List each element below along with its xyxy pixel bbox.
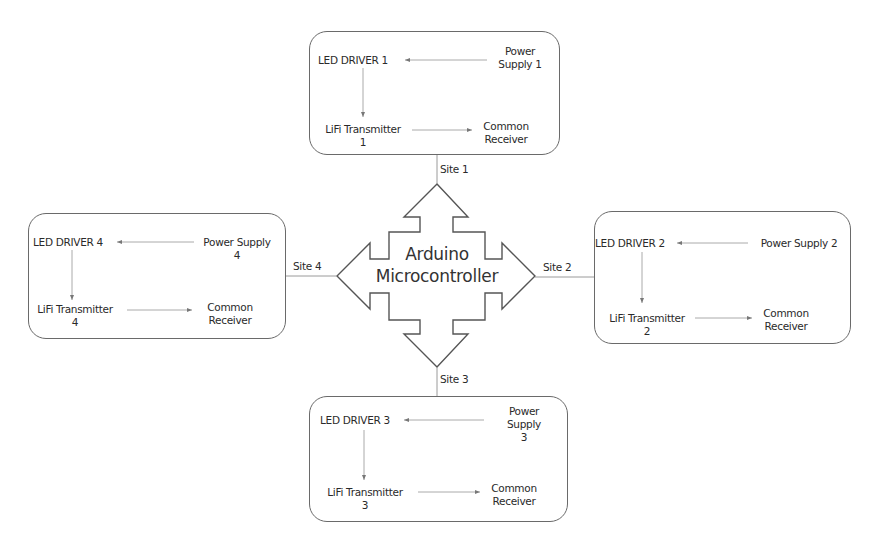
site-2-label: Site 2: [543, 261, 571, 273]
site-2-lifi-transmitter: LiFi Transmitter 2: [600, 312, 694, 338]
arduino-label-line2: Microcontroller: [367, 265, 507, 287]
arduino-label: Arduino Microcontroller: [367, 243, 507, 287]
site-4-lifi-transmitter: LiFi Transmitter 4: [28, 303, 122, 329]
site-1-lifi-transmitter: LiFi Transmitter 1: [316, 123, 410, 149]
site-4-led-driver: LED DRIVER 4: [33, 236, 103, 249]
site-2-led-driver: LED DRIVER 2: [595, 237, 665, 250]
site-1-power-supply: Power Supply 1: [490, 45, 550, 71]
site-4-common-receiver: Common Receiver: [200, 301, 260, 327]
site-3-led-driver: LED DRIVER 3: [320, 414, 390, 427]
site-4-label: Site 4: [293, 260, 321, 272]
site-3-label: Site 3: [440, 373, 468, 385]
arduino-label-line1: Arduino: [367, 243, 507, 265]
site-3-lifi-transmitter: LiFi Transmitter 3: [318, 486, 412, 512]
site-3-common-receiver: Common Receiver: [484, 482, 544, 508]
site-1-led-driver: LED DRIVER 1: [318, 54, 388, 67]
site-2-power-supply: Power Supply 2: [754, 237, 844, 250]
site-2-common-receiver: Common Receiver: [756, 307, 816, 333]
site-4-power-supply: Power Supply 4: [197, 236, 277, 262]
site-1-common-receiver: Common Receiver: [476, 120, 536, 146]
site-1-label: Site 1: [440, 163, 468, 175]
site-3-power-supply: Power Supply 3: [494, 405, 554, 444]
